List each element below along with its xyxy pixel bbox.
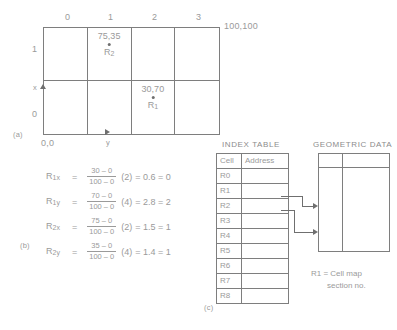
connector-r2-arrowhead-icon — [313, 229, 318, 235]
grid-cell — [44, 81, 88, 134]
grid-column-label-0: 0 — [65, 13, 70, 22]
equation-fraction: 70 – 0 100 – 0 — [87, 192, 116, 212]
table-row[interactable]: R4 — [217, 229, 289, 244]
equation-fraction: 75 – 0 100 – 0 — [87, 217, 116, 237]
grid-cell — [88, 81, 132, 134]
point-marker-r1: 30,70 R1 — [142, 84, 165, 111]
cell-address — [242, 259, 289, 274]
grid-row-label-1: 1 — [32, 45, 37, 54]
connector-r2-horizontal-2 — [294, 232, 314, 233]
grid-origin-label: 0,0 — [41, 139, 54, 148]
table-row[interactable]: R1 — [217, 184, 289, 199]
point-name-r2: R2 — [98, 47, 121, 58]
equation-row: R2x = 75 – 0 100 – 0 (2) = 1.5 = 1 — [46, 214, 171, 239]
cell-id: R3 — [217, 214, 242, 229]
equation-lhs: R2x — [46, 221, 72, 231]
geometric-data-caption: R1 = Cell map section no. — [311, 268, 366, 292]
equation-result: = 1.4 = 1 — [135, 247, 171, 257]
grid-cell: 75,35 R2 — [88, 28, 132, 81]
table-row[interactable]: R6 — [217, 259, 289, 274]
cell-id: R5 — [217, 244, 242, 259]
equation-multiplier: (4) — [121, 197, 132, 207]
fraction-numerator: 75 – 0 — [89, 217, 114, 226]
point-coord-r2: 75,35 — [98, 31, 121, 41]
column-header-cell: Cell — [217, 154, 242, 169]
equation-equals: = — [72, 172, 77, 182]
equation-result: = 1.5 = 1 — [135, 222, 171, 232]
caption-line-1: R1 = Cell map — [311, 269, 362, 278]
cell-id: R7 — [217, 274, 242, 289]
geometric-data-table — [318, 153, 390, 252]
grid-cell — [175, 28, 219, 81]
geo-column-divider — [342, 154, 343, 251]
cell-grid-diagram: 75,35 R2 30,70 R1 — [43, 27, 220, 135]
table-row[interactable]: R8 — [217, 289, 289, 304]
index-table-wrapper: Cell Address R0 R1 R2 R3 — [216, 153, 289, 304]
panel-label-b: (b) — [20, 242, 30, 250]
connector-r1-horizontal — [281, 196, 302, 197]
cell-id: R6 — [217, 259, 242, 274]
fraction-denominator: 100 – 0 — [87, 201, 116, 211]
cell-address — [242, 244, 289, 259]
equation-multiplier: (4) — [121, 247, 132, 257]
table-row[interactable]: R7 — [217, 274, 289, 289]
geo-header-divider — [319, 167, 389, 168]
grid-cell — [175, 81, 219, 134]
fraction-denominator: 100 – 0 — [87, 251, 116, 261]
grid-column-label-2: 2 — [152, 13, 157, 22]
point-marker-r2: 75,35 R2 — [98, 31, 121, 58]
grid-cell: 30,70 R1 — [132, 81, 176, 134]
fraction-numerator: 35 – 0 — [89, 242, 114, 251]
grid-row-label-0: 0 — [32, 110, 37, 119]
equation-fraction: 30 – 0 100 – 0 — [87, 167, 116, 187]
index-table: Cell Address R0 R1 R2 R3 — [216, 153, 289, 304]
point-coord-r1: 30,70 — [142, 84, 165, 94]
table-row[interactable]: R2 — [217, 199, 289, 214]
x-axis-label: x — [33, 84, 37, 92]
connector-r2-horizontal — [281, 210, 294, 211]
cell-address — [242, 169, 289, 184]
equation-fraction: 35 – 0 100 – 0 — [87, 242, 116, 262]
point-dot-r2 — [108, 43, 111, 46]
grid-cell — [44, 28, 88, 81]
equation-equals: = — [72, 222, 77, 232]
table-row[interactable]: R3 — [217, 214, 289, 229]
point-dot-r1 — [151, 96, 154, 99]
y-axis-arrow-icon — [105, 129, 110, 135]
equation-multiplier: (2) — [121, 172, 132, 182]
equation-list: R1x = 30 – 0 100 – 0 (2) = 0.6 = 0 R1y =… — [46, 164, 171, 264]
table-row[interactable]: R0 — [217, 169, 289, 184]
grid-column-label-1: 1 — [108, 13, 113, 22]
equation-lhs: R1y — [46, 196, 72, 206]
column-header-address: Address — [242, 154, 289, 169]
grid-cell — [132, 28, 176, 81]
table-row[interactable]: R5 — [217, 244, 289, 259]
connector-r2-vertical — [294, 210, 295, 232]
cell-id: R8 — [217, 289, 242, 304]
equation-lhs: R2y — [46, 246, 72, 256]
cell-id: R4 — [217, 229, 242, 244]
y-axis-label: y — [106, 139, 110, 147]
grid-max-coordinate-label: 100,100 — [224, 22, 258, 31]
equation-multiplier: (2) — [121, 222, 132, 232]
connector-r1-vertical — [302, 196, 303, 206]
cell-address — [242, 289, 289, 304]
geometric-data-title: GEOMETRIC DATA — [313, 140, 392, 149]
cell-address — [242, 229, 289, 244]
cell-id: R0 — [217, 169, 242, 184]
grid-column-label-3: 3 — [196, 13, 201, 22]
figure-canvas: 75,35 R2 30,70 R1 0 1 2 3 1 0 — [0, 0, 397, 330]
equation-row: R1x = 30 – 0 100 – 0 (2) = 0.6 = 0 — [46, 164, 171, 189]
table-header-row: Cell Address — [217, 154, 289, 169]
caption-line-2: section no. — [311, 280, 366, 292]
fraction-numerator: 70 – 0 — [89, 192, 114, 201]
panel-label-a: (a) — [13, 131, 23, 139]
cell-grid: 75,35 R2 30,70 R1 — [43, 27, 220, 135]
equation-result: = 2.8 = 2 — [135, 197, 171, 207]
equation-equals: = — [72, 197, 77, 207]
equation-row: R1y = 70 – 0 100 – 0 (4) = 2.8 = 2 — [46, 189, 171, 214]
point-name-r1: R1 — [142, 100, 165, 111]
equation-row: R2y = 35 – 0 100 – 0 (4) = 1.4 = 1 — [46, 239, 171, 264]
equation-equals: = — [72, 247, 77, 257]
panel-label-c: (c) — [204, 304, 213, 312]
